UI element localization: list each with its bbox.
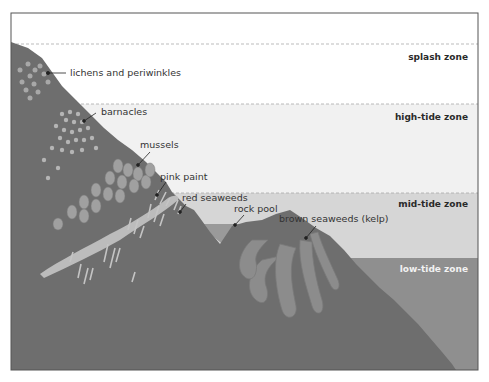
label-pink-paint: pink paint xyxy=(160,171,208,182)
rocky-shore-zonation-diagram: lichens and periwinkles barnacles mussel… xyxy=(0,0,489,382)
label-lichens-and-periwinkles: lichens and periwinkles xyxy=(70,67,181,78)
label-rock-pool: rock pool xyxy=(234,203,278,214)
label-mid-tide-zone: mid-tide zone xyxy=(398,199,468,209)
sky-band xyxy=(11,13,478,44)
label-splash-zone: splash zone xyxy=(408,52,468,62)
label-red-seaweeds: red seaweeds xyxy=(182,192,248,203)
label-brown-seaweeds-kelp: brown seaweeds (kelp) xyxy=(279,213,389,224)
label-high-tide-zone: high-tide zone xyxy=(395,112,468,122)
label-mussels: mussels xyxy=(140,139,179,150)
label-barnacles: barnacles xyxy=(101,106,147,117)
label-low-tide-zone: low-tide zone xyxy=(400,264,468,274)
